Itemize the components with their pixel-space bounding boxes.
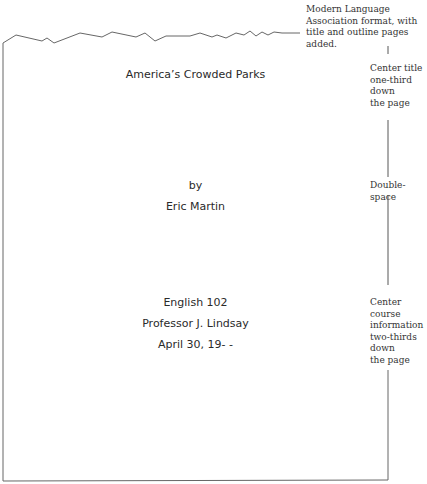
format-annotation: Modern Language Association format, with… — [306, 4, 427, 50]
torn-top-edge — [3, 31, 300, 43]
author-name: Eric Martin — [3, 200, 388, 213]
note-line: the page — [370, 355, 427, 367]
professor-name: Professor J. Lindsay — [3, 317, 388, 330]
by-line: by — [3, 179, 388, 192]
note-line: down — [370, 86, 427, 98]
paper-title: America’s Crowded Parks — [3, 68, 388, 81]
page-bottom-edge — [3, 480, 388, 481]
submission-date: April 30, 19- - — [3, 338, 388, 351]
course-name: English 102 — [3, 296, 388, 309]
note-line: the page — [370, 98, 427, 110]
